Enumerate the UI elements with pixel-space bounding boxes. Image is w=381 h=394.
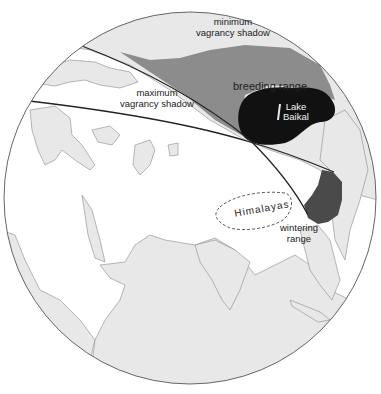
label-minimum-shadow-line1: minimum (196, 16, 270, 27)
globe-map (0, 0, 381, 394)
label-wintering-line2: range (280, 233, 318, 244)
label-wintering-range: wintering range (280, 222, 318, 244)
land-aral (168, 143, 178, 156)
label-minimum-shadow: minimum vagrancy shadow (196, 16, 270, 38)
label-lake-line2: Baikal (283, 112, 309, 122)
label-wintering-line1: wintering (280, 222, 318, 233)
label-breeding-range: breeding range (233, 80, 307, 92)
label-minimum-shadow-line2: vagrancy shadow (196, 27, 270, 38)
label-lake-baikal: Lake Baikal (283, 102, 309, 122)
label-maximum-shadow-line2: vagrancy shadow (120, 98, 194, 109)
label-maximum-shadow: maximum vagrancy shadow (120, 87, 194, 109)
label-maximum-shadow-line1: maximum (120, 87, 194, 98)
